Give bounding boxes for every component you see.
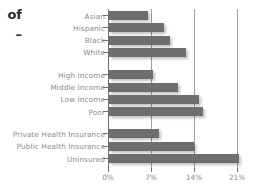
y-axis-labels: AsianHispanicBlackWhiteHigh IncomeMiddle… <box>0 9 105 168</box>
bar <box>109 70 153 79</box>
bar <box>109 23 164 32</box>
y-axis-label: Poor <box>0 108 105 117</box>
bar <box>109 48 186 57</box>
y-tick-mark <box>103 15 108 16</box>
y-axis-label: Black <box>0 36 105 45</box>
plot-area <box>108 9 259 168</box>
x-axis-label: 0% <box>102 173 114 182</box>
x-tick-mark <box>151 168 152 172</box>
y-tick-mark <box>103 52 108 53</box>
x-tick-mark <box>194 168 195 172</box>
y-axis-label: Asian <box>0 12 105 21</box>
y-tick-mark <box>103 74 108 75</box>
x-axis-label: 21% <box>229 173 245 182</box>
y-axis-label: Uninsured <box>0 155 105 164</box>
bar <box>109 129 159 138</box>
y-axis-label: Middle Income <box>0 83 105 92</box>
y-tick-mark <box>103 158 108 159</box>
bar <box>109 83 178 92</box>
y-axis-label: White <box>0 48 105 57</box>
bar <box>109 95 199 104</box>
x-axis-label: 14% <box>186 173 202 182</box>
y-axis-label: High Income <box>0 71 105 80</box>
chart-screenshot: of – AsianHispanicBlackWhiteHigh IncomeM… <box>0 0 259 190</box>
gridline-14 <box>194 9 195 168</box>
y-axis-label: Hispanic <box>0 24 105 33</box>
bar-chart: AsianHispanicBlackWhiteHigh IncomeMiddle… <box>0 0 259 190</box>
bar <box>109 107 203 116</box>
bar <box>109 36 170 45</box>
y-tick-mark <box>103 27 108 28</box>
gridline-21 <box>237 9 238 168</box>
bar <box>109 154 239 163</box>
y-tick-mark <box>103 99 108 100</box>
y-axis-label: Public Health Insurance <box>0 142 105 151</box>
x-tick-mark <box>237 168 238 172</box>
y-tick-mark <box>103 111 108 112</box>
x-tick-mark <box>108 168 109 172</box>
y-axis-label: Low Income <box>0 95 105 104</box>
y-axis-label: Private Health Insurance <box>0 130 105 139</box>
y-tick-mark <box>103 40 108 41</box>
y-tick-mark <box>103 146 108 147</box>
y-tick-mark <box>103 133 108 134</box>
x-axis: 0%7%14%21% <box>108 168 259 188</box>
y-tick-mark <box>103 87 108 88</box>
bar <box>109 11 148 20</box>
x-axis-label: 7% <box>145 173 157 182</box>
bar <box>109 142 194 151</box>
